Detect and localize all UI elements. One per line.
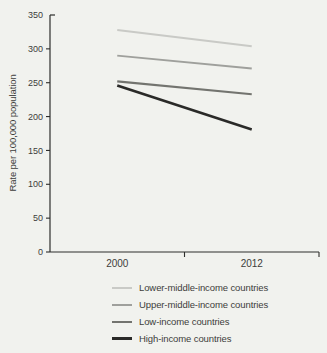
legend-label: Lower-middle-income countries <box>139 282 268 293</box>
y-tick-label: 350 <box>28 10 43 20</box>
y-tick-label: 150 <box>28 146 43 156</box>
figure: Rate per 100,000 population 050100150200… <box>0 0 327 353</box>
legend-swatch-low-income-countries <box>112 321 132 323</box>
legend-item-lower-middle-income-countries: Lower-middle-income countries <box>112 282 268 293</box>
line-chart: 05010015020025030035020002012 <box>0 0 327 275</box>
y-tick-label: 300 <box>28 44 43 54</box>
y-tick-label: 0 <box>38 247 43 257</box>
y-tick-label: 100 <box>28 179 43 189</box>
legend-item-low-income-countries: Low-income countries <box>112 316 268 327</box>
series-line-lower-middle-income-countries <box>117 30 252 46</box>
legend-label: High-income countries <box>139 333 231 344</box>
series-line-upper-middle-income-countries <box>117 56 252 69</box>
legend: Lower-middle-income countriesUpper-middl… <box>112 282 268 350</box>
y-tick-label: 50 <box>33 213 43 223</box>
x-tick-label: 2012 <box>241 258 264 269</box>
legend-swatch-upper-middle-income-countries <box>112 304 132 306</box>
y-tick-label: 250 <box>28 78 43 88</box>
y-tick-label: 200 <box>28 112 43 122</box>
legend-label: Low-income countries <box>139 316 229 327</box>
x-tick-label: 2000 <box>106 258 129 269</box>
legend-label: Upper-middle-income countries <box>139 299 268 310</box>
legend-item-upper-middle-income-countries: Upper-middle-income countries <box>112 299 268 310</box>
legend-item-high-income-countries: High-income countries <box>112 333 268 344</box>
legend-swatch-lower-middle-income-countries <box>112 287 132 289</box>
legend-swatch-high-income-countries <box>112 337 132 340</box>
